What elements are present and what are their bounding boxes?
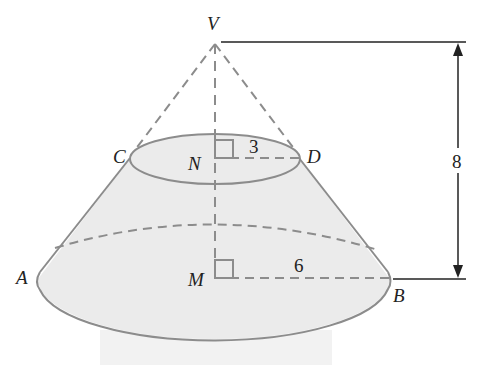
arrowhead-up-icon [453,43,463,56]
label-n: N [187,153,202,174]
label-bottom-radius: 6 [294,255,304,276]
label-m: M [187,269,205,290]
label-v: V [207,13,221,34]
frustum-diagram: V C D N A M B 3 6 8 [0,0,499,365]
label-height: 8 [452,151,462,172]
label-a: A [14,267,28,288]
arrowhead-down-icon [453,265,463,278]
label-b: B [393,285,405,306]
label-d: D [306,146,321,167]
label-c: C [113,146,126,167]
label-top-radius: 3 [249,136,259,157]
